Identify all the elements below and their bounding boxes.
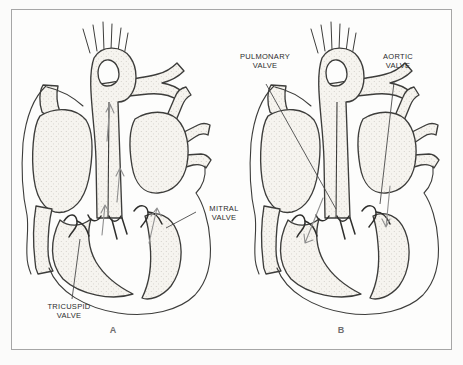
label-mitral-valve: MITRAL VALVE [196, 204, 252, 222]
label-tricuspid-valve: TRICUSPID VALVE [37, 302, 101, 320]
label-pulmonary-valve: PULMONARY VALVE [234, 52, 296, 70]
label-line: VALVE [37, 311, 101, 320]
panel-letter-a: A [106, 325, 120, 335]
figure: TRICUSPID VALVE MITRAL VALVE PULMONARY V… [0, 0, 463, 365]
label-line: VALVE [234, 61, 296, 70]
label-line: AORTIC [368, 52, 428, 61]
label-line: VALVE [368, 61, 428, 70]
label-line: TRICUSPID [37, 302, 101, 311]
label-line: PULMONARY [234, 52, 296, 61]
label-line: VALVE [196, 213, 252, 222]
heart-a-drawing [22, 22, 211, 314]
label-line: MITRAL [196, 204, 252, 213]
label-aortic-valve: AORTIC VALVE [368, 52, 428, 70]
panel-letter-b: B [334, 325, 348, 335]
